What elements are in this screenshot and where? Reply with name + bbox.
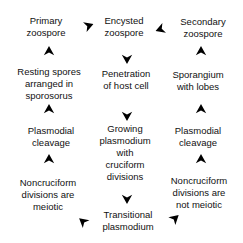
arrow-up-icon bbox=[195, 46, 207, 64]
node-plasmodial-cleavage-left: Plasmodial cleavage bbox=[16, 125, 86, 149]
arrow-up-icon bbox=[43, 104, 55, 122]
node-noncruciform-meiotic: Noncruciform divisions are meiotic bbox=[9, 177, 87, 213]
arrow-down-icon bbox=[121, 46, 133, 64]
node-transitional-plasmodium: Transitional plasmodium bbox=[90, 209, 166, 233]
node-growing-plasmodium: Growing plasmodium with cruciform divisi… bbox=[90, 123, 160, 183]
node-noncruciform-not-meiotic: Noncruciform divisions are not meiotic bbox=[160, 175, 238, 211]
arrow-up-icon bbox=[195, 104, 207, 122]
node-secondary-zoospore: Secondary zoospore bbox=[169, 16, 237, 40]
node-sporangium-with-lobes: Sporangium with lobes bbox=[164, 69, 232, 93]
life-cycle-diagram: Primary zoospore Encysted zoospore Secon… bbox=[0, 0, 243, 243]
node-primary-zoospore: Primary zoospore bbox=[14, 15, 78, 39]
arrow-up-icon bbox=[43, 154, 55, 172]
node-plasmodial-cleavage-right: Plasmodial cleavage bbox=[163, 125, 233, 149]
node-encysted-zoospore: Encysted zoospore bbox=[92, 15, 156, 39]
node-penetration-host-cell: Penetration of host cell bbox=[89, 68, 163, 92]
arrow-up-icon bbox=[43, 46, 55, 64]
arrow-up-icon bbox=[195, 154, 207, 172]
node-resting-spores: Resting spores arranged in sporosorus bbox=[5, 66, 93, 102]
arrow-down-icon bbox=[121, 103, 133, 121]
arrow-down-icon bbox=[121, 186, 133, 204]
